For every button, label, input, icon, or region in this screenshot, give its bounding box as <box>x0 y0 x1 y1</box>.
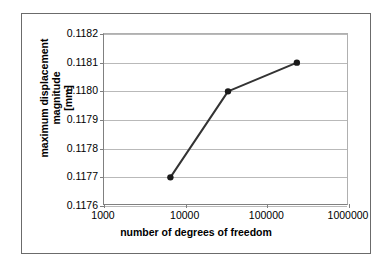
y-axis-tick-labels: 0.11760.11770.11780.11790.11800.11810.11… <box>40 33 98 205</box>
y-tick-label: 0.1177 <box>67 170 98 182</box>
x-tick-label: 100000 <box>249 209 284 221</box>
data-point-marker <box>294 59 300 65</box>
x-tick-label: 10000 <box>170 209 199 221</box>
series-polyline <box>170 63 296 178</box>
plot-area <box>103 33 348 205</box>
x-tick-label: 1000 <box>91 209 114 221</box>
x-axis-title: number of degrees of freedom <box>21 226 371 238</box>
x-tick-label: 1000000 <box>328 209 369 221</box>
chart-figure: maximum displacement magnitude [mm] 0.11… <box>0 0 389 272</box>
x-tick-mark <box>349 204 350 208</box>
y-tick-label: 0.1182 <box>67 27 98 39</box>
gridline <box>104 206 347 207</box>
data-point-marker <box>167 174 173 180</box>
y-tick-label: 0.1180 <box>67 84 98 96</box>
data-series-line <box>104 34 349 206</box>
y-tick-label: 0.1178 <box>67 142 98 154</box>
data-point-marker <box>225 88 231 94</box>
x-axis-tick-labels: 1000100001000001000000 <box>103 209 348 225</box>
y-tick-label: 0.1181 <box>67 56 98 68</box>
y-tick-label: 0.1179 <box>67 113 98 125</box>
